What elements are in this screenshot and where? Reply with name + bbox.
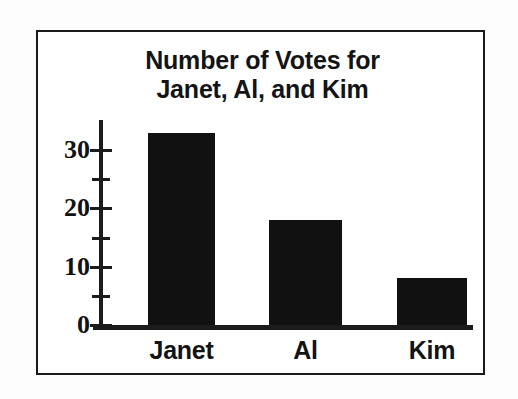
y-axis-tick-10 [90, 266, 112, 269]
y-axis-label-30: 30 [42, 137, 90, 163]
y-axis-tick-15 [92, 237, 110, 240]
plot-area: 3020100 JanetAlKim [38, 32, 487, 377]
category-label-kim: Kim [377, 336, 487, 364]
chart-border-frame: Number of Votes for Janet, Al, and Kim 3… [36, 30, 485, 375]
x-axis-baseline [93, 325, 473, 330]
y-axis-tick-30 [90, 149, 112, 152]
y-axis-tick-20 [90, 207, 112, 210]
y-axis-label-10: 10 [42, 254, 90, 280]
category-label-janet: Janet [128, 336, 235, 364]
bar-janet[interactable] [148, 133, 215, 326]
y-axis-label-20: 20 [42, 195, 90, 221]
y-axis-tick-25 [92, 178, 110, 181]
category-label-al: Al [249, 336, 362, 364]
bar-kim[interactable] [397, 278, 467, 325]
figure-canvas: Number of Votes for Janet, Al, and Kim 3… [0, 0, 518, 399]
y-axis-label-0: 0 [42, 312, 90, 338]
y-axis-tick-0 [90, 324, 112, 327]
y-axis-tick-labels: 3020100 [38, 32, 90, 377]
y-axis-tick-5 [92, 295, 110, 298]
bar-al[interactable] [269, 220, 342, 325]
